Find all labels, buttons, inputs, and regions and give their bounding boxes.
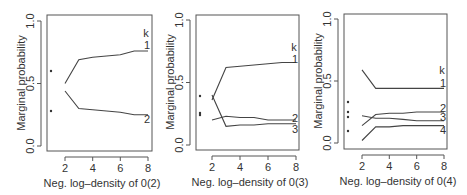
x-axis-label: Neg. log–density of 0(2) [44, 177, 161, 189]
data-point [199, 95, 201, 97]
series-line-k1 [362, 70, 444, 89]
data-point [347, 101, 349, 103]
series-lines [212, 63, 296, 127]
plot-frame [47, 15, 152, 151]
data-point [347, 130, 349, 132]
xtick-label: 2 [209, 161, 215, 173]
x-axis-label: Neg. log–density of 0(4) [340, 175, 457, 187]
series-label: 2 [144, 113, 150, 125]
series-label: 4 [440, 124, 446, 136]
y-axis-label: Marginal probability [15, 35, 27, 131]
series-line-k4 [362, 126, 444, 141]
series-label: 3 [440, 111, 446, 123]
series-label: 1 [292, 53, 298, 65]
ytick-label: 0.0 [321, 135, 333, 150]
legend-title: k [439, 64, 445, 76]
legend-title: k [143, 27, 149, 39]
plot-frame [344, 14, 447, 149]
series-label: 1 [440, 77, 446, 89]
xtick-label: 8 [293, 161, 299, 173]
panel-1: 0.0 0.5 1.0 Marginal probability 2 4 6 8… [15, 13, 160, 189]
xtick-label: 2 [62, 162, 68, 174]
legend-title: k [291, 41, 297, 53]
x-axis: 2 4 6 8 Neg. log–density of 0(4) [340, 155, 457, 187]
data-point [199, 114, 201, 116]
xtick-label: 8 [441, 160, 447, 172]
series-line-k1 [65, 51, 148, 84]
series-line-k3 [362, 116, 444, 121]
series-line-k1 [212, 63, 296, 101]
y-axis-label: Marginal probability [164, 34, 176, 130]
xtick-label: 6 [414, 160, 420, 172]
panel-3: 0.0 0.5 1.0 Marginal probability 2 4 6 8… [312, 11, 456, 187]
ytick-label: 0.0 [24, 138, 36, 153]
y-axis: 0.0 0.5 1.0 Marginal probability [15, 13, 41, 153]
data-point [347, 116, 349, 118]
xtick-label: 6 [265, 161, 271, 173]
y-axis: 0.0 0.5 1.0 Marginal probability [312, 11, 338, 150]
series-line-k2 [212, 116, 296, 120]
x-axis: 2 4 6 8 Neg. log–density of 0(3) [192, 156, 309, 188]
ytick-label: 1.0 [173, 12, 185, 27]
series-lines [65, 51, 148, 115]
y-axis: 0.0 0.5 1.0 Marginal probability [164, 12, 190, 152]
y-axis-label: Marginal probability [312, 33, 324, 129]
xtick-label: 4 [237, 161, 243, 173]
figure: 0.0 0.5 1.0 Marginal probability 2 4 6 8… [0, 0, 467, 195]
x-axis-label: Neg. log–density of 0(3) [192, 176, 309, 188]
ytick-label: 1.0 [24, 13, 36, 28]
data-point [50, 110, 52, 112]
ytick-label: 0.0 [173, 137, 185, 152]
xtick-label: 8 [145, 162, 151, 174]
series-label: 1 [144, 39, 150, 51]
data-point [347, 111, 349, 113]
series-line-k2 [65, 91, 148, 115]
xtick-label: 2 [359, 160, 365, 172]
xtick-label: 4 [386, 160, 392, 172]
ytick-label: 1.0 [321, 11, 333, 26]
data-point [50, 70, 52, 72]
x-axis: 2 4 6 8 Neg. log–density of 0(2) [44, 157, 161, 189]
panel-2: 0.0 0.5 1.0 Marginal probability 2 4 6 8… [164, 12, 308, 188]
series-label: 3 [292, 123, 298, 135]
plot-frame [196, 15, 299, 150]
xtick-label: 4 [90, 162, 96, 174]
series-line-k2 [362, 112, 444, 126]
xtick-label: 6 [117, 162, 123, 174]
series-lines [362, 70, 444, 141]
series-line-k3 [212, 95, 296, 126]
